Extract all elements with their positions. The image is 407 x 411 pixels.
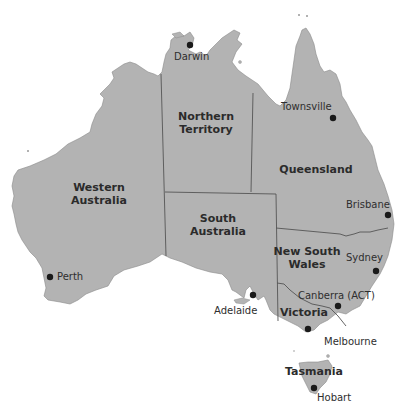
mainland-outline <box>12 28 394 332</box>
state-name-line1: Queensland <box>276 164 356 177</box>
state-name-line2: Territory <box>166 124 246 137</box>
city-label-melbourne: Melbourne <box>324 336 377 348</box>
state-name-line1: Victoria <box>272 307 336 320</box>
city-dot-melbourne <box>305 326 311 332</box>
city-label-darwin: Darwin <box>174 51 209 63</box>
city-label-perth: Perth <box>57 271 83 283</box>
state-name-line2: Wales <box>272 259 342 272</box>
city-label-adelaide: Adelaide <box>214 305 257 317</box>
state-label-western-australia: Western Australia <box>59 182 139 207</box>
state-label-victoria: Victoria <box>272 307 336 320</box>
city-dot-perth <box>47 274 53 280</box>
state-name-line1: Western <box>59 182 139 195</box>
city-label-canberra: Canberra (ACT) <box>298 290 375 302</box>
state-name-line1: New South <box>272 246 342 259</box>
state-name-line1: Tasmania <box>282 366 346 379</box>
australia-map: Western Australia Northern Territory Sou… <box>0 0 407 411</box>
city-label-brisbane: Brisbane <box>346 199 390 211</box>
city-dot-hobart <box>311 385 317 391</box>
kangaroo-island <box>234 298 250 304</box>
city-dot-darwin <box>187 42 193 48</box>
city-dot-sydney <box>373 268 379 274</box>
city-dot-adelaide <box>250 292 256 298</box>
state-label-northern-territory: Northern Territory <box>166 111 246 136</box>
state-label-south-australia: South Australia <box>178 213 258 238</box>
state-label-queensland: Queensland <box>276 164 356 177</box>
state-name-line1: Northern <box>166 111 246 124</box>
city-label-townsville: Townsville <box>281 101 332 113</box>
city-label-sydney: Sydney <box>346 252 383 264</box>
state-name-line2: Australia <box>178 226 258 239</box>
state-name-line1: South <box>178 213 258 226</box>
state-label-new-south-wales: New South Wales <box>272 246 342 271</box>
city-dot-brisbane <box>385 212 391 218</box>
city-dot-townsville <box>330 115 336 121</box>
state-name-line2: Australia <box>59 195 139 208</box>
state-label-tasmania: Tasmania <box>282 366 346 379</box>
city-label-hobart: Hobart <box>317 392 351 404</box>
